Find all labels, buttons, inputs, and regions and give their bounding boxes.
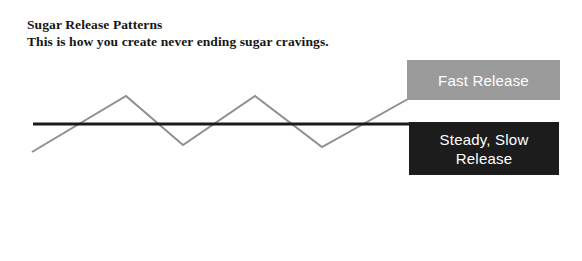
callout-fast-release-label: Fast Release bbox=[438, 71, 529, 90]
callout-fast-release: Fast Release bbox=[407, 60, 560, 100]
slide-canvas: Sugar Release Patterns This is how you c… bbox=[0, 0, 582, 261]
callout-steady-slow-release-label: Steady, Slow Release bbox=[440, 130, 529, 168]
callout-steady-slow-release: Steady, Slow Release bbox=[409, 122, 559, 175]
